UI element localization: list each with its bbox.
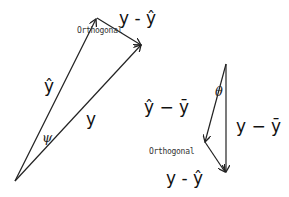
y-hat-vector — [15, 19, 96, 181]
residual-vector-right — [205, 142, 225, 172]
y-hat-minus-y-bar-label: ŷ − ȳ — [144, 99, 189, 116]
psi-angle-label: ψ — [42, 131, 52, 144]
y-hat-minus-y-bar-vector — [205, 64, 226, 142]
theta-angle-label: θ — [215, 85, 223, 98]
y-vector — [15, 45, 141, 181]
y-minus-y-bar-label: y − ȳ — [236, 118, 281, 135]
y-hat-label: ŷ — [44, 78, 54, 95]
orthogonal-annotation-right: Orthogonal — [149, 148, 194, 156]
residual-label-right: y - ŷ — [166, 170, 203, 187]
orthogonal-annotation-left: Orthogonal — [77, 27, 122, 35]
y-label: y — [86, 111, 96, 128]
residual-label-left: y - ŷ — [119, 10, 156, 27]
